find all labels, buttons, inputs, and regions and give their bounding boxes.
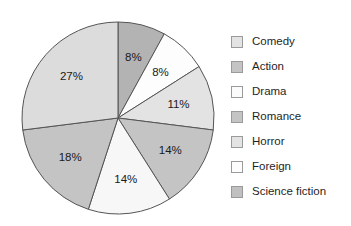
pie-slices-group [22, 22, 214, 214]
legend-item[interactable]: Science fiction [231, 179, 349, 204]
legend-item-label: Foreign [252, 161, 291, 173]
legend-color-swatch [231, 61, 243, 73]
legend-color-swatch [231, 111, 243, 123]
legend-color-swatch [231, 161, 243, 173]
legend-color-swatch [231, 36, 243, 48]
pie-chart-figure: 8%8%11%14%14%18%27% ComedyActionDramaRom… [0, 0, 351, 226]
pie-slice-value-label: 14% [114, 173, 137, 185]
pie-slice-value-label: 8% [152, 66, 169, 78]
legend-item-label: Action [252, 61, 284, 73]
pie-chart-plot-area: 8%8%11%14%14%18%27% [0, 0, 232, 226]
pie-slice-value-label: 18% [59, 151, 82, 163]
chart-legend: ComedyActionDramaRomanceHorrorForeignSci… [231, 29, 349, 204]
legend-color-swatch [231, 86, 243, 98]
pie-chart-svg: 8%8%11%14%14%18%27% [0, 0, 232, 226]
legend-item-label: Comedy [252, 36, 295, 48]
legend-item[interactable]: Action [231, 54, 349, 79]
legend-item-label: Drama [252, 86, 287, 98]
legend-item[interactable]: Foreign [231, 154, 349, 179]
legend-color-swatch [231, 136, 243, 148]
pie-slice-value-label: 14% [159, 144, 182, 156]
pie-slice-value-label: 27% [60, 70, 83, 82]
legend-color-swatch [231, 186, 243, 198]
pie-slice-value-label: 11% [167, 98, 189, 110]
legend-item[interactable]: Romance [231, 104, 349, 129]
legend-item-label: Horror [252, 136, 285, 148]
legend-item[interactable]: Comedy [231, 29, 349, 54]
legend-item[interactable]: Drama [231, 79, 349, 104]
legend-item-label: Romance [252, 111, 301, 123]
legend-item[interactable]: Horror [231, 129, 349, 154]
legend-item-label: Science fiction [252, 186, 326, 198]
pie-slice-value-label: 8% [125, 51, 142, 63]
